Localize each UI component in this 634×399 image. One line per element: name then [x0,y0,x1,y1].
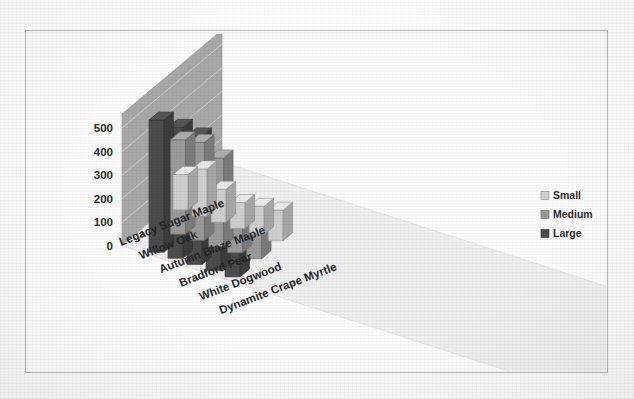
bar-0-0[interactable] [173,167,198,210]
legend-label-small[interactable]: Small [553,189,581,201]
legend-swatch-medium[interactable] [541,211,549,219]
y-tick-label-300: 300 [94,169,113,181]
chart-frame: 0100200300400500Legacy Sugar MapleWillow… [25,30,608,373]
legend-swatch-small[interactable] [541,192,549,200]
legend-label-large[interactable]: Large [553,227,582,239]
chart-plot-container[interactable]: 0100200300400500Legacy Sugar MapleWillow… [29,34,604,369]
y-tick-label-500: 500 [94,122,113,134]
y-tick-label-200: 200 [94,193,113,205]
legend-label-medium[interactable]: Medium [553,208,593,220]
y-tick-label-0: 0 [107,240,113,252]
chart-legend[interactable]: SmallMediumLarge [541,189,593,239]
y-tick-label-400: 400 [94,146,113,158]
y-tick-label-100: 100 [94,216,113,228]
bar-chart-3d[interactable]: 0100200300400500Legacy Sugar MapleWillow… [29,34,606,371]
bar-front-face [173,175,188,210]
y-axis-ticks: 0100200300400500 [94,122,113,252]
screenshot-root: 0100200300400500Legacy Sugar MapleWillow… [0,0,634,399]
legend-swatch-large[interactable] [541,230,549,238]
